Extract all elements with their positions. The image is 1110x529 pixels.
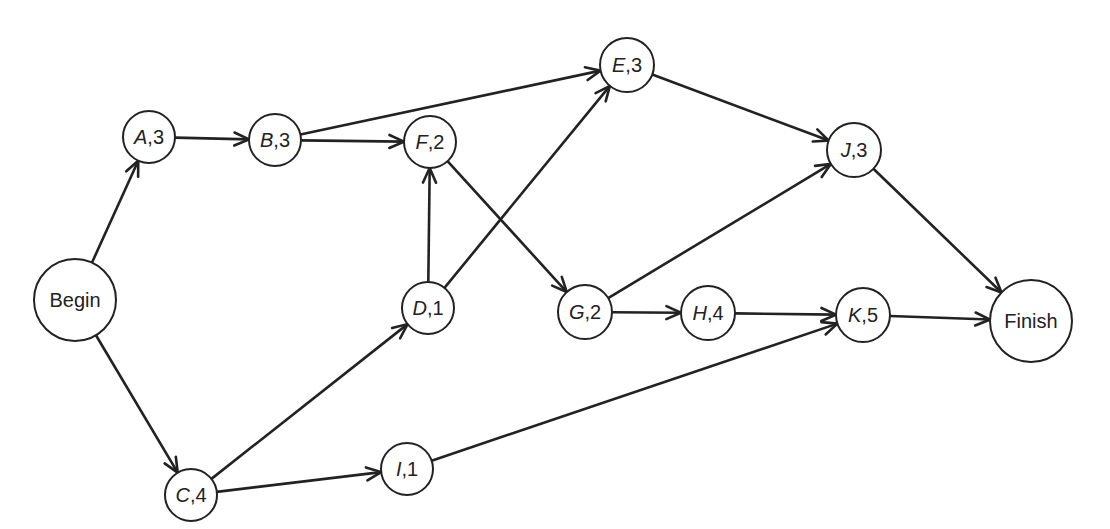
edge-line [890,316,990,320]
edge-line [432,324,838,461]
edge-c-to-d [211,324,407,479]
edge-a-to-b [175,133,249,146]
edge-line [175,138,249,140]
edge-line [652,74,828,140]
edge-g-to-j [608,164,831,298]
edge-f-to-g [448,161,567,292]
node-e: E,3 [600,38,654,92]
edge-h-to-k [735,308,836,321]
node-label: Finish [1004,310,1057,332]
edge-line [735,313,836,314]
edge-line [96,335,178,472]
node-a: A,3 [123,111,175,163]
edge-g-to-h [612,306,681,319]
edge-c-to-i [217,467,381,491]
edge-d-to-f [423,168,436,282]
edge-line [448,161,567,292]
node-g: G,2 [558,285,612,339]
node-label: H,4 [692,302,723,324]
edge-begin-to-a [92,161,138,263]
edge-k-to-finish [890,313,990,326]
node-f: F,2 [404,116,456,168]
network-diagram: BeginA,3B,3C,4D,1E,3F,2G,2H,4I,1J,3K,5Fi… [0,0,1110,529]
edge-line [873,169,1001,293]
edge-b-to-f [301,135,404,148]
nodes-layer: BeginA,3B,3C,4D,1E,3F,2G,2H,4I,1J,3K,5Fi… [34,38,1072,521]
edge-line [428,168,429,282]
node-label: D,1 [412,297,443,319]
node-j: J,3 [827,123,881,177]
edge-line [301,140,404,141]
edge-i-to-k [432,322,838,461]
node-label: C,4 [175,484,206,506]
edge-j-to-finish [873,169,1001,293]
node-h: H,4 [681,286,735,340]
node-label: K,5 [848,304,878,326]
node-d: D,1 [402,282,454,334]
node-c: C,4 [165,469,217,521]
node-label: F,2 [416,131,445,153]
node-i: I,1 [381,443,433,495]
edge-line [92,161,138,263]
edge-begin-to-c [96,335,178,472]
node-k: K,5 [836,288,890,342]
node-begin: Begin [34,259,116,341]
node-label: E,3 [612,54,642,76]
edge-line [612,312,681,313]
edge-e-to-j [652,74,828,141]
edge-line [211,324,407,479]
node-label: A,3 [133,126,164,148]
node-finish: Finish [990,280,1072,362]
node-label: Begin [49,289,100,311]
node-label: J,3 [840,139,868,161]
node-label: B,3 [260,129,290,151]
edge-line [608,164,831,298]
node-label: I,1 [396,458,418,480]
node-label: G,2 [569,301,601,323]
edge-line [217,472,381,492]
arrowhead-icon [815,164,831,177]
node-b: B,3 [249,114,301,166]
